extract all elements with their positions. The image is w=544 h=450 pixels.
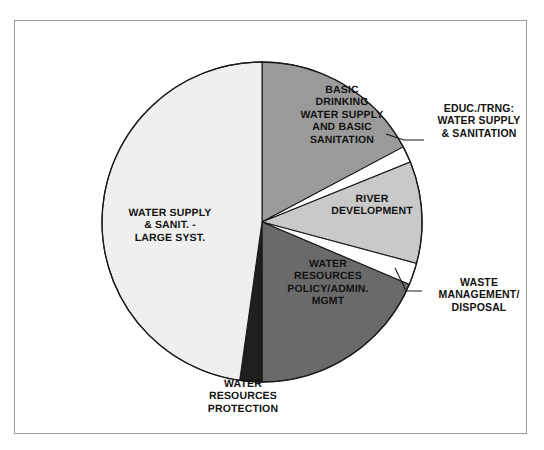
pie-label-water-resources-policy-admin-mgmt: WATER RESOURCES POLICY/ADMIN. MGMT (270, 258, 386, 308)
pie-label-waste-management-disposal: WASTE MANAGEMENT/ DISPOSAL (420, 276, 538, 313)
figure-root: BASIC DRINKING WATER SUPPLY AND BASIC SA… (0, 0, 544, 450)
pie-label-water-supply-sanit-large-syst: WATER SUPPLY & SANIT. - LARGE SYST. (104, 207, 236, 244)
pie-label-educ-trng-water-supply-and-sanitation: EDUC./TRNG: WATER SUPPLY & SANITATION (424, 102, 534, 139)
pie-label-water-resources-protection: WATER RESOURCES PROTECTION (182, 378, 304, 415)
pie-label-river-development: RIVER DEVELOPMENT (320, 193, 424, 218)
pie-label-basic-drinking-water-supply-and-basic-sanitation: BASIC DRINKING WATER SUPPLY AND BASIC SA… (286, 84, 398, 146)
